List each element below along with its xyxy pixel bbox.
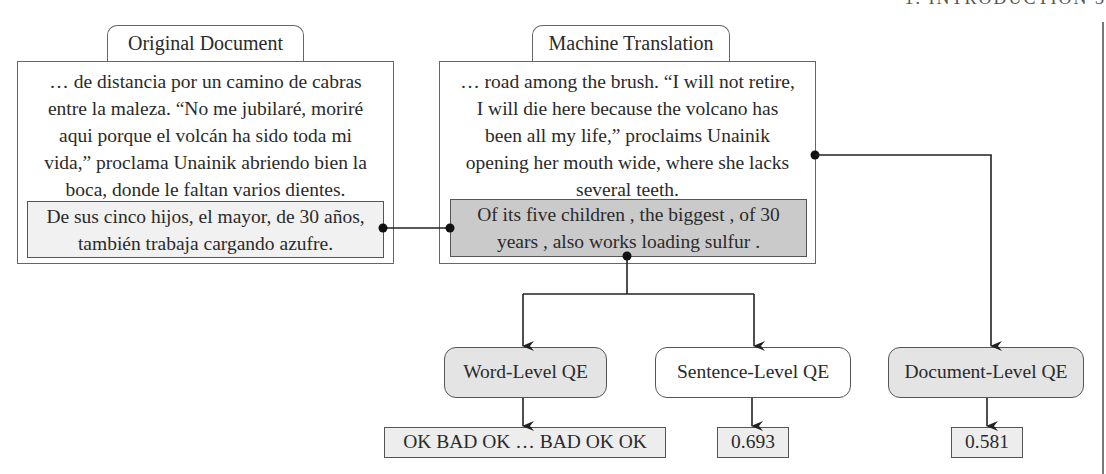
- mt-anchor-dot: [446, 224, 455, 233]
- source-anchor-dot: [379, 224, 388, 233]
- connector-layer: [0, 0, 1106, 474]
- arrow-to-document-level: [815, 155, 991, 346]
- sentence-anchor-dot: [623, 252, 632, 261]
